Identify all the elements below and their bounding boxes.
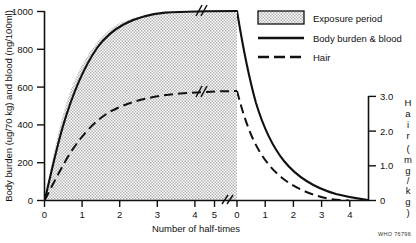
right-axis-title-letter-2: i — [407, 119, 409, 130]
right-axis-tick-labels: 0 1.0 2.0 3.0 — [380, 91, 393, 206]
chart-figure: 0 200 400 600 800 1000 Body burden (ug/7… — [0, 0, 416, 243]
left-tick-label-0: 0 — [28, 195, 33, 206]
left-tick-label-600: 600 — [17, 82, 33, 93]
left-tick-label-200: 200 — [17, 157, 33, 168]
right-axis-title-letter-5: m — [404, 154, 412, 165]
legend-item-hair: Hair — [258, 52, 330, 63]
right-axis-ticks — [369, 96, 377, 200]
right-tick-label-1: 1.0 — [380, 160, 393, 171]
legend-label-hair: Hair — [313, 52, 330, 63]
right-axis-title-letter-3: r — [406, 130, 409, 141]
legend-swatch-exposure-period — [258, 11, 304, 24]
left-axis-title: Body burden (ug/70 kg) and blood (ng/100… — [3, 10, 14, 202]
right-tick-label-0: 0 — [380, 195, 385, 206]
chart-legend: Exposure period Body burden & blood Hair — [258, 11, 402, 63]
x-uptake-tick-5: 5 — [212, 209, 217, 220]
bottom-axis-ticks-elimination — [237, 201, 350, 208]
x-uptake-tick-0: 0 — [42, 209, 47, 220]
right-axis-title-letter-8: k — [406, 185, 411, 196]
right-axis-title: H a i r ( m g / k g ) — [404, 97, 412, 218]
left-tick-label-1000: 1000 — [12, 6, 33, 17]
exposure-period-region — [45, 11, 238, 200]
right-tick-label-3: 3.0 — [380, 91, 393, 102]
bottom-axis-tick-labels-uptake: 0 1 2 3 4 5 — [42, 209, 217, 220]
x-elim-tick-2: 2 — [291, 209, 296, 220]
legend-item-body-burden-blood: Body burden & blood — [258, 33, 402, 44]
right-axis-title-letter-10: ) — [406, 207, 409, 218]
left-axis-ticks — [37, 12, 45, 201]
figure-credit: WHO 76796 — [378, 231, 411, 237]
legend-label-body-burden-blood: Body burden & blood — [313, 33, 402, 44]
bottom-axis-tick-labels-elimination: 0 1 2 3 4 — [234, 209, 352, 220]
x-elim-tick-3: 3 — [319, 209, 324, 220]
x-uptake-tick-2: 2 — [117, 209, 122, 220]
x-elim-tick-4: 4 — [347, 209, 352, 220]
right-axis-title-letter-4: ( — [406, 143, 410, 154]
left-axis-tick-labels: 0 200 400 600 800 1000 — [12, 6, 33, 206]
legend-label-exposure-period: Exposure period — [313, 13, 382, 24]
x-uptake-tick-1: 1 — [79, 209, 84, 220]
legend-item-exposure-period: Exposure period — [258, 11, 382, 24]
x-elim-tick-1: 1 — [263, 209, 268, 220]
right-axis-title-letter-1: a — [405, 108, 411, 119]
x-elim-tick-0: 0 — [234, 209, 239, 220]
x-uptake-tick-4: 4 — [192, 209, 197, 220]
chart-svg: 0 200 400 600 800 1000 Body burden (ug/7… — [0, 0, 416, 243]
bottom-axis-ticks-uptake — [45, 201, 215, 208]
right-tick-label-2: 2.0 — [380, 126, 393, 137]
x-uptake-tick-3: 3 — [155, 209, 160, 220]
right-axis-title-letter-9: g — [405, 196, 410, 207]
x-axis-title: Number of half-times — [152, 223, 240, 234]
left-tick-label-400: 400 — [17, 119, 33, 130]
left-tick-label-800: 800 — [17, 44, 33, 55]
right-axis-title-letter-0: H — [405, 97, 412, 108]
